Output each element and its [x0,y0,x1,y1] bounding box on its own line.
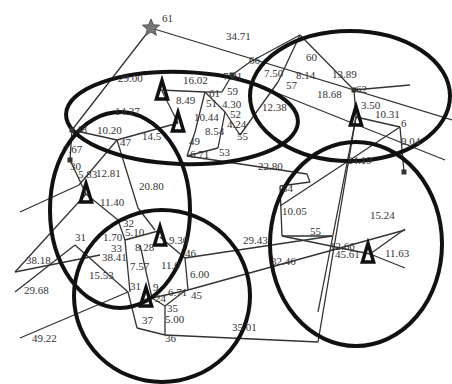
edge-label: 9.30 [169,234,189,246]
edge-label: 6.71 [168,286,187,298]
edge-label: 59 [227,85,239,97]
edge-label: 38.41 [102,251,127,263]
source-star-icon [142,19,159,35]
edge-label: 10.44 [194,111,219,123]
edge [307,174,310,182]
edge-label: 10.20 [97,124,122,136]
edge-label: 45 [191,289,203,301]
edge-label: 9.04 [401,135,421,147]
substation-triangle-icon [154,227,165,245]
edge-label: 10.31 [375,108,400,120]
edge-label: 8.14 [296,69,316,81]
edge-label: 47 [120,136,132,148]
edge-label: 48 [76,123,88,135]
edge-label: 62 [356,83,367,95]
edge-label: 55 [310,225,322,237]
edge-label: 11.40 [100,196,125,208]
edge-label: 6 [401,117,407,129]
edge-label: 13.89 [332,68,357,80]
edge-label: 36 [165,332,177,344]
edge-label: 15.24 [370,209,395,221]
edge-label: 29.68 [24,284,49,296]
edge-label: 12.81 [96,167,121,179]
edge-label: 5.83 [78,168,98,180]
edge-label: 32.46 [271,255,296,267]
edge-label: 24 [155,292,167,304]
edge-label: 12.66 [330,240,355,252]
bus-node-icon [70,128,75,133]
edge-label: 53 [219,146,231,158]
edge-label: 16.02 [183,74,208,86]
edge-label: 6.00 [190,268,210,280]
bus-node-icon [402,170,407,175]
edge-label: 4.24 [227,118,247,130]
edge-label: 29.43 [243,234,268,246]
edge-label: 7.81 [223,70,242,82]
edge [128,292,137,328]
edge-label: 6.71 [190,148,209,160]
edge-label: 24.19 [347,154,372,166]
edge-label: 18.68 [317,88,342,100]
edge-label: 35.01 [232,321,257,333]
edge-label: 22.80 [258,160,283,172]
edge-label: 11.0 [161,259,180,271]
edge-label: 7.67 [63,143,83,155]
edge-label: 34.71 [226,30,251,42]
edge-label: 14.5 [142,130,162,142]
edge-label: 54 [282,182,294,194]
edge-label: 55 [237,130,249,142]
edge-label: 29.00 [118,72,143,84]
edge-label: 31 [75,231,86,243]
edge-label: 8.49 [176,94,196,106]
edge-label: 14.27 [115,105,140,117]
edge-label: 66 [249,54,261,66]
network-diagram: 6134.7129.0016.027.81667.50608.1413.8957… [0,0,452,384]
edge-label: 7.50 [264,67,284,79]
edge [137,328,165,335]
edge-label: 60 [306,51,318,63]
edge-label: 5.00 [165,313,185,325]
edge-label: 61 [162,12,173,24]
edge-label: 10.05 [282,205,307,217]
edge-label: 7.57 [130,260,150,272]
edge-label: 51 [206,97,217,109]
edge-label: 31 [130,280,141,292]
substation-triangle-icon [362,244,373,262]
edge-label: 8.28 [135,241,155,253]
edge-label: 46 [185,247,197,259]
edge-label: 49.22 [32,332,57,344]
edge-label: 5.10 [125,226,145,238]
edge-label: 49 [189,135,201,147]
edge-label: 37 [142,314,154,326]
source-layer [142,19,159,35]
edge-label: 8.54 [205,125,225,137]
edge-label: 20.80 [139,180,164,192]
edge-label: 15.53 [89,269,114,281]
edge-label: 12.38 [262,101,287,113]
edge-label: 11.63 [385,247,410,259]
edge-label: 38.18 [26,254,51,266]
edge-label: 57 [286,79,298,91]
